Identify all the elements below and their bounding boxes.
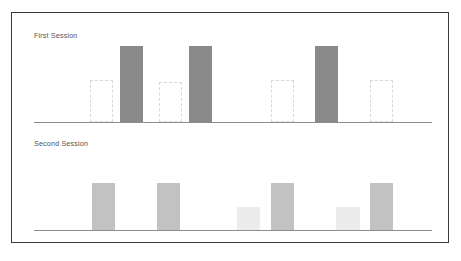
bar-first-session-6: [315, 46, 338, 122]
bar-second-session-3: [237, 207, 260, 230]
bar-first-session-1: [90, 80, 113, 122]
figure-frame: First Session Second Session: [11, 12, 449, 243]
panel-title-first-session: First Session: [34, 31, 78, 40]
plot-area-second-session: [34, 155, 432, 231]
bar-second-session-6: [370, 183, 393, 230]
bar-second-session-5: [336, 207, 359, 230]
chart-panel-second-session: Second Session: [12, 139, 448, 239]
bar-second-session-1: [92, 183, 115, 230]
baseline-axis-second-session: [34, 230, 432, 231]
bar-first-session-4: [189, 46, 212, 122]
plot-area-first-session: [34, 47, 432, 123]
baseline-axis-first-session: [34, 122, 432, 123]
bar-first-session-5: [271, 80, 294, 122]
panel-title-second-session: Second Session: [34, 139, 88, 148]
bar-second-session-2: [157, 183, 180, 230]
bar-first-session-2: [120, 46, 143, 122]
bar-first-session-3: [159, 82, 182, 122]
chart-panel-first-session: First Session: [12, 31, 448, 131]
bar-first-session-7: [370, 80, 393, 122]
bar-second-session-4: [271, 183, 294, 230]
